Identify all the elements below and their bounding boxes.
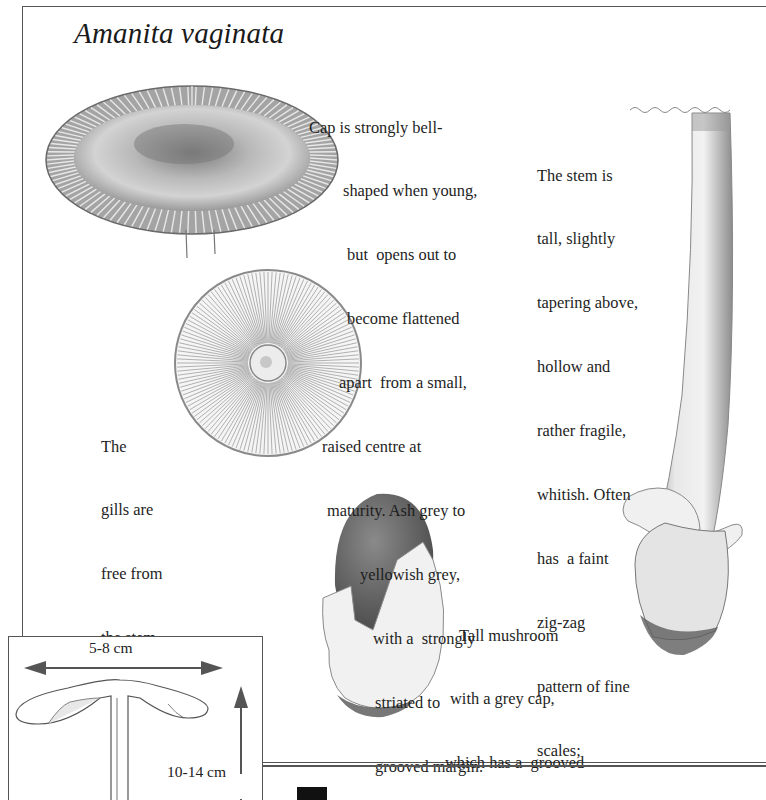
cap-line: but opens out to [347,244,483,265]
arrow-left-icon [24,661,46,675]
stem-line: tall, slightly [537,228,638,249]
cap-line: raised centre at [322,436,483,457]
gills-line: free from [101,563,236,584]
cap-line: maturity. Ash grey to [327,500,483,521]
cap-line: shaped when young, [343,180,483,201]
cap-width-label: 5-8 cm [89,639,132,657]
stem-line: has a faint [537,548,638,569]
arrow-up-icon [234,686,248,708]
height-label: 10-14 cm [167,763,226,781]
cap-line: become flattened [347,308,483,329]
stem-line: rather fragile, [537,420,638,441]
stem-line: tapering above, [537,292,638,313]
drop-cap-fragment [297,787,327,800]
stem-line: hollow and [537,356,638,377]
cap-line: Cap is strongly bell- [309,117,483,138]
cap-line: apart from a small, [339,372,483,393]
cap-top-illustration [44,82,344,262]
summary-line: Tall mushroom [459,625,584,646]
gills-line: The [101,436,236,457]
summary-description: Tall mushroom with a grey cap, which has… [425,582,584,800]
summary-line: with a grey cap, [450,688,584,709]
species-title: Amanita vaginata [74,17,284,50]
stem-line: The stem is [537,165,638,186]
stem-line: whitish. Often [537,484,638,505]
summary-line: which has a grooved [445,752,584,773]
section-divider [263,765,766,767]
gills-line: gills are [101,499,236,520]
arrow-right-icon [201,661,223,675]
